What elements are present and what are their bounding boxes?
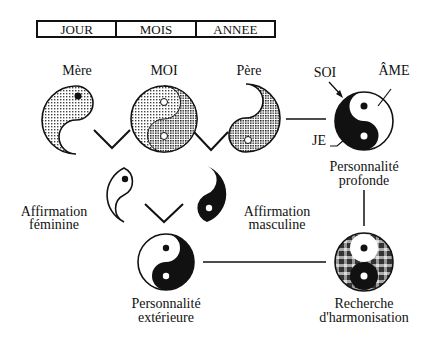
exterieure-symbol [138,234,194,290]
label-soi: SOI [310,66,340,80]
label-exterieure-2: extérieure [126,311,206,325]
label-harmonisation-2: d'harmonisation [314,311,414,325]
profonde-symbol [335,92,393,150]
feminine-half-symbol [107,168,132,222]
label-mere: Mère [57,64,97,78]
combine-mark-2 [194,132,228,150]
label-feminine-2: féminine [14,218,94,232]
label-pere: Père [229,64,269,78]
label-je: JE [308,134,330,148]
label-profonde-2: profonde [324,174,404,188]
label-profonde-1: Personnalité [324,160,404,174]
masculine-half-symbol [197,166,226,222]
combine-mark-1 [94,130,130,148]
label-harmonisation-1: Recherche [314,297,414,311]
combine-mark-3 [145,204,183,222]
harmonisation-symbol [335,233,393,291]
label-ame: ÂME [374,64,414,78]
mere-half-symbol [42,86,93,154]
moi-symbol [131,86,197,152]
label-masculine-2: masculine [237,218,317,232]
label-moi: MOI [144,64,184,78]
pere-half-symbol [229,84,280,152]
label-exterieure-1: Personnalité [126,297,206,311]
